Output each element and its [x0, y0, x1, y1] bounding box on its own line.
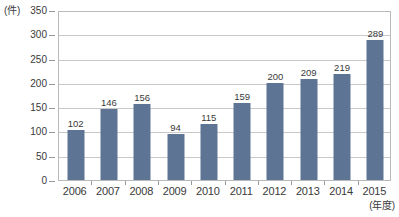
bar-group: 115	[192, 12, 225, 180]
x-axis-tick-label: 2010	[196, 185, 220, 198]
bar-value-label: 159	[234, 92, 250, 102]
y-axis-tick-label: 50	[36, 152, 47, 162]
y-axis-tick-label: 150	[30, 103, 47, 113]
y-axis-tick-mark	[49, 181, 55, 182]
bar-value-label: 94	[170, 123, 181, 133]
bar-value-label: 289	[367, 29, 383, 39]
bar-group: 219	[325, 12, 358, 180]
y-axis-tick-mark	[49, 132, 55, 133]
bar	[100, 109, 117, 180]
x-axis-tick-label: 2011	[230, 185, 253, 198]
bar-value-label: 200	[268, 72, 284, 82]
y-axis-tick-mark	[49, 11, 55, 12]
bar	[334, 74, 351, 180]
bar-value-label: 115	[201, 113, 216, 123]
x-axis-tick-label: 2012	[263, 185, 287, 198]
bar	[134, 104, 151, 180]
x-axis-unit-label: (年度)	[369, 200, 395, 211]
bars-layer: 10214615694115159200209219289	[59, 12, 390, 180]
bar-group: 209	[292, 12, 325, 180]
bar-group: 156	[126, 12, 159, 180]
bar	[367, 40, 384, 180]
bar	[267, 83, 284, 180]
bar-group: 102	[59, 12, 92, 180]
plot-area: 10214615694115159200209219289	[58, 11, 391, 181]
x-axis-tick-label: 2006	[63, 185, 87, 198]
x-axis-tick-label: 2009	[163, 185, 187, 198]
y-axis-tick-mark	[49, 108, 55, 109]
x-axis-tick-label: 2008	[129, 185, 153, 198]
y-axis-tick-label: 350	[30, 6, 47, 16]
bar-value-label: 102	[68, 119, 84, 129]
bar	[234, 103, 251, 180]
bar-value-label: 209	[301, 68, 317, 78]
x-axis-tick-label: 2007	[96, 185, 120, 198]
bar-group: 94	[159, 12, 192, 180]
bar-group: 289	[359, 12, 392, 180]
y-axis-tick-label: 0	[41, 176, 47, 186]
bar-chart: (件) 050100150200250300350 10214615694115…	[0, 0, 399, 217]
bar	[300, 79, 317, 181]
bar-group: 159	[226, 12, 259, 180]
bar-value-label: 156	[134, 93, 150, 103]
y-axis-tick-mark	[49, 35, 55, 36]
y-axis-tick-label: 250	[30, 55, 47, 65]
bar-group: 146	[92, 12, 125, 180]
y-axis-tick-label: 100	[30, 127, 47, 137]
bar-value-label: 146	[101, 98, 117, 108]
y-axis-tick-mark	[49, 84, 55, 85]
y-axis: 050100150200250300350	[0, 0, 57, 217]
y-axis-tick-mark	[49, 157, 55, 158]
x-axis-tick-label: 2013	[296, 185, 320, 198]
bar	[167, 134, 184, 180]
y-axis-tick-mark	[49, 60, 55, 61]
bar-value-label: 219	[334, 63, 350, 73]
x-axis-tick-label: 2014	[329, 185, 353, 198]
bar-group: 200	[259, 12, 292, 180]
x-axis-tick-label: 2015	[363, 185, 387, 198]
y-axis-tick-label: 200	[30, 79, 47, 89]
bar	[67, 130, 84, 180]
bar	[200, 124, 217, 180]
y-axis-tick-label: 300	[30, 30, 47, 40]
x-axis: 2006200720082009201020112012201320142015	[58, 185, 391, 201]
